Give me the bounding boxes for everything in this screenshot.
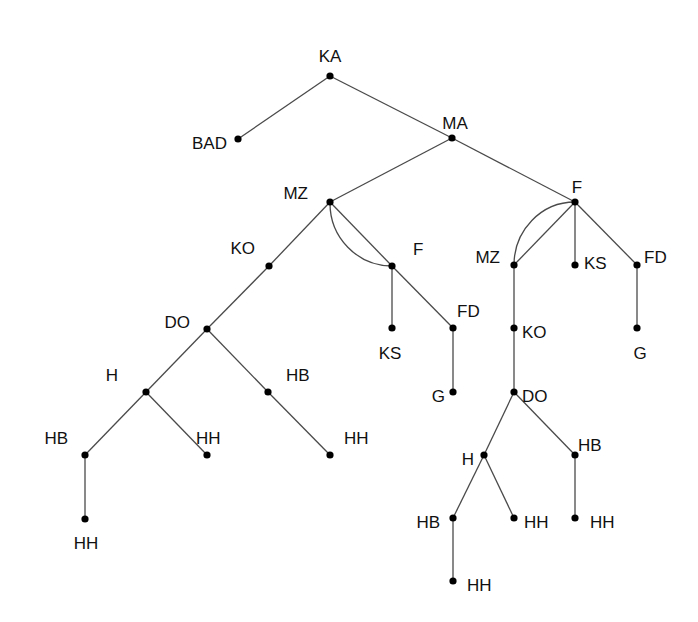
edge-n11-n16 <box>146 329 207 392</box>
node-label-mz: MZ <box>283 184 308 203</box>
node-dot-g <box>633 324 640 331</box>
edge-n6-n11 <box>207 266 269 329</box>
node-label-f: F <box>413 240 423 259</box>
node-dot-h <box>142 388 149 395</box>
edge-n17-n22 <box>268 392 330 455</box>
node-label-g: G <box>633 344 646 363</box>
node-dot-bad <box>234 135 241 142</box>
edge-n16-n20 <box>85 392 146 455</box>
tree-diagram-svg: KABADMAMZFKOFMZKSFDDOKSFDKOGHHBGDOHBHHHH… <box>0 0 698 622</box>
edge-n4-n7 <box>330 202 392 266</box>
node-dot-hb <box>264 388 271 395</box>
node-dot-hb <box>81 451 88 458</box>
node-label-hb: HB <box>44 429 68 448</box>
node-label-ks: KS <box>379 344 402 363</box>
node-label-mz: MZ <box>475 248 500 267</box>
node-dot-hh <box>203 451 210 458</box>
labels-layer: KABADMAMZFKOFMZKSFDDOKSFDKOGHHBGDOHBHHHH… <box>44 47 666 595</box>
edge-n3-n5 <box>452 138 575 202</box>
node-label-hh: HH <box>467 576 492 595</box>
edge-n4-n6 <box>269 202 330 266</box>
node-dot-f <box>388 262 395 269</box>
node-label-hh: HH <box>196 429 221 448</box>
node-dot-ko <box>510 324 517 331</box>
edge-n3-n4 <box>330 138 452 202</box>
node-dot-hh <box>449 577 456 584</box>
node-dot-hh <box>510 514 517 521</box>
arcs-layer <box>330 202 575 266</box>
node-dot-ma <box>448 134 455 141</box>
node-label-ko: KO <box>522 323 547 342</box>
edge-n19-n23 <box>484 392 514 455</box>
node-dot-ks <box>571 261 578 268</box>
node-dot-hh <box>81 515 88 522</box>
node-label-ko: KO <box>230 239 255 258</box>
node-label-ma: MA <box>442 114 468 133</box>
node-dot-mz <box>510 261 517 268</box>
edge-n11-n17 <box>207 329 268 392</box>
node-label-ks: KS <box>584 254 607 273</box>
node-label-do: DO <box>165 313 191 332</box>
tree-diagram: KABADMAMZFKOFMZKSFDDOKSFDKOGHHBGDOHBHHHH… <box>0 0 698 622</box>
node-dot-f <box>571 198 578 205</box>
node-label-f: F <box>572 178 582 197</box>
node-dot-ko <box>265 262 272 269</box>
node-label-fd: FD <box>457 302 480 321</box>
node-label-do: DO <box>522 387 548 406</box>
node-dot-ka <box>326 72 333 79</box>
node-label-h: H <box>106 366 118 385</box>
node-label-hh: HH <box>344 429 369 448</box>
edge-n7-n13 <box>392 266 453 328</box>
edge-n5-n8 <box>514 202 575 265</box>
node-label-h: H <box>462 450 474 469</box>
node-dot-mz <box>326 198 333 205</box>
node-dot-hb <box>449 514 456 521</box>
node-dot-do <box>203 325 210 332</box>
node-dot-do <box>510 388 517 395</box>
node-label-g: G <box>432 387 445 406</box>
node-dot-ks <box>388 324 395 331</box>
node-label-hb: HB <box>286 366 310 385</box>
edge-n1-n2 <box>238 76 330 139</box>
node-dot-h <box>480 451 487 458</box>
node-label-ka: KA <box>319 47 342 66</box>
node-dot-hh <box>326 451 333 458</box>
edge-n1-n3 <box>330 76 452 138</box>
node-label-hh: HH <box>74 534 99 553</box>
node-dot-fd <box>633 261 640 268</box>
node-label-hh: HH <box>524 513 549 532</box>
edge-n23-n27 <box>484 455 514 518</box>
node-label-hh: HH <box>590 513 615 532</box>
node-label-hb: HB <box>578 436 602 455</box>
node-dot-fd <box>449 324 456 331</box>
node-label-fd: FD <box>644 248 667 267</box>
node-label-hb: HB <box>416 513 440 532</box>
node-dot-g <box>449 388 456 395</box>
node-dot-hh <box>571 514 578 521</box>
node-label-bad: BAD <box>192 134 227 153</box>
